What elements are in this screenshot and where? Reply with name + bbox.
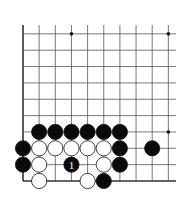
star-point [167,32,171,36]
black-stone [64,124,79,139]
white-stone [32,173,47,188]
black-stone [112,124,127,139]
white-stone [64,141,79,156]
white-stone [32,141,47,156]
black-stone [145,141,160,156]
black-stone [48,124,63,139]
white-stone [96,157,111,172]
white-stone [48,141,63,156]
black-stone: 1 [64,157,79,172]
go-board[interactable]: 1 [0,0,187,205]
black-stone [112,157,127,172]
board-grid [23,25,176,181]
black-stone [112,141,127,156]
star-point [70,32,74,36]
white-stone [80,173,95,188]
black-stone [80,124,95,139]
black-stone [15,157,30,172]
white-stone [96,141,111,156]
black-stone [96,124,111,139]
black-stone [15,141,30,156]
black-stone [32,124,47,139]
white-stone [32,157,47,172]
white-stone [80,141,95,156]
move-number-label: 1 [69,159,75,171]
black-stone [96,173,111,188]
star-point [167,130,171,134]
